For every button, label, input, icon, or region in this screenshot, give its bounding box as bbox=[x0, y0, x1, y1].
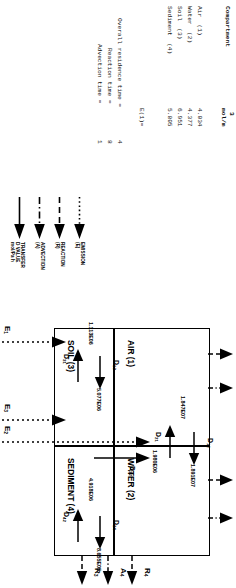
emission-arrow-e1 bbox=[2, 334, 68, 350]
transfer-arrow-d32 bbox=[94, 450, 152, 466]
emission-label-e1: E1 bbox=[3, 326, 12, 334]
model-output-report: Compartment 3 mol/m Air (1) 4.034 Water … bbox=[0, 0, 236, 196]
report-row-value-0: 4.034 bbox=[196, 108, 202, 127]
emission-label-e2: E2 bbox=[3, 426, 12, 434]
legend-label-transfer-d-value: TRANSFER D VALUE mol/Pa h bbox=[10, 242, 25, 268]
transfer-label-d24-sub: 24 bbox=[112, 525, 117, 530]
reaction-label-r4: R4 bbox=[143, 568, 152, 577]
transfer-value-d31: 1.113E06 bbox=[88, 322, 94, 345]
advection-time-value: 1 bbox=[96, 140, 102, 144]
legend-label-emission: EMISSION (E) bbox=[75, 242, 85, 265]
advection-time-label: Advection time = bbox=[96, 44, 102, 103]
report-column-concentration: mol/m bbox=[220, 108, 226, 127]
advection-arrow-a1 bbox=[208, 380, 234, 396]
multimedia-compartment-diagram: AIR (1) WATER (2) SOIL (3) SEDIMENT (4) … bbox=[0, 300, 236, 588]
transfer-label-d31-sub: 31 bbox=[62, 359, 67, 364]
advection-label-a4-sub: 4 bbox=[119, 574, 124, 577]
report-row-value-1: 4.377 bbox=[186, 108, 192, 127]
rotated-page-canvas: Compartment 3 mol/m Air (1) 4.034 Water … bbox=[0, 0, 236, 588]
reaction-label-r4-sub: 4 bbox=[143, 574, 148, 577]
advection-arrow-a2 bbox=[208, 510, 234, 526]
transfer-value-d42: 4.918E06 bbox=[88, 478, 94, 501]
overall-residence-time-label: Overall residence time = bbox=[116, 18, 122, 107]
compartment-label-air: AIR (1) bbox=[126, 340, 136, 367]
transfer-label-d32-sub: 32 bbox=[128, 471, 133, 476]
emission-arrow-e2 bbox=[2, 434, 152, 450]
report-row-value-2: 6.951 bbox=[176, 108, 182, 127]
report-row-value-3: 5.805 bbox=[166, 108, 172, 127]
overall-residence-time-value: 4 bbox=[116, 140, 122, 144]
transfer-value-d21: 1.847E07 bbox=[180, 396, 186, 419]
advection-arrow-a4 bbox=[100, 556, 116, 586]
transfer-label-d24: D24 bbox=[112, 520, 120, 530]
reaction-arrow-r1 bbox=[208, 346, 234, 362]
legend: EMISSION (E) REACTION (R) ADVECTION (A) bbox=[0, 196, 236, 292]
reaction-arrow-r2 bbox=[208, 472, 234, 488]
transfer-label-d42: D42 bbox=[62, 512, 70, 522]
emission-label-e3-sub: 3 bbox=[3, 409, 8, 412]
advection-arrow-icon bbox=[33, 196, 46, 240]
transfer-label-d42-sub: 42 bbox=[62, 517, 67, 522]
transfer-label-d21-sub: 21 bbox=[154, 437, 159, 442]
reaction-time-value: 8 bbox=[106, 140, 112, 144]
emission-label: E(1)= bbox=[138, 108, 144, 127]
transfer-arrow-d42 bbox=[70, 506, 86, 542]
reaction-arrow-icon bbox=[53, 196, 66, 240]
reaction-time-label: Reaction time = bbox=[106, 48, 112, 104]
transfer-d-value-arrow-icon bbox=[13, 196, 26, 240]
transfer-arrow-d21 bbox=[162, 422, 178, 458]
emission-label-e3: E3 bbox=[3, 404, 12, 412]
report-row-name-1: Water (2) bbox=[186, 6, 192, 43]
transfer-arrow-d12 bbox=[186, 432, 202, 466]
reaction-arrow-r3 bbox=[74, 556, 90, 586]
report-column-concentration-exponent: 3 bbox=[228, 112, 234, 116]
emission-label-e2-sub: 2 bbox=[3, 431, 8, 434]
advection-label-a4: A4 bbox=[119, 568, 128, 577]
transfer-arrow-d13 bbox=[92, 356, 108, 390]
report-row-name-0: Air (1) bbox=[196, 6, 202, 36]
transfer-label-d12-sub: 12 bbox=[206, 443, 211, 448]
transfer-label-d13-sub: 13 bbox=[112, 365, 117, 370]
transfer-label-d12: D12 bbox=[206, 438, 214, 448]
legend-label-reaction: REACTION (R) bbox=[55, 242, 65, 267]
emission-label-e1-sub: 1 bbox=[3, 331, 8, 334]
report-row-name-2: Soil (3) bbox=[176, 6, 182, 39]
report-column-compartment: Compartment bbox=[224, 6, 230, 47]
reaction-label-r3-sub: 3 bbox=[93, 574, 98, 577]
transfer-arrow-d31 bbox=[70, 346, 86, 382]
transfer-label-d13: D13 bbox=[112, 360, 120, 370]
legend-label-advection: ADVECTION (A) bbox=[35, 242, 45, 270]
report-row-name-3: Sediment (4) bbox=[166, 6, 172, 54]
transfer-arrow-d24 bbox=[92, 516, 108, 550]
transfer-value-d13: 5.077E06 bbox=[96, 388, 102, 411]
transfer-value-d12: 1.891E07 bbox=[190, 464, 196, 487]
transfer-label-d21: D21 bbox=[154, 432, 162, 442]
transfer-label-d32: D32 bbox=[128, 466, 136, 476]
emission-arrow-icon bbox=[73, 196, 86, 240]
transfer-label-d31: D31 bbox=[62, 354, 70, 364]
screenshot-root: Compartment 3 mol/m Air (1) 4.034 Water … bbox=[0, 0, 236, 588]
transfer-value-d32: 1.980E06 bbox=[152, 450, 158, 473]
